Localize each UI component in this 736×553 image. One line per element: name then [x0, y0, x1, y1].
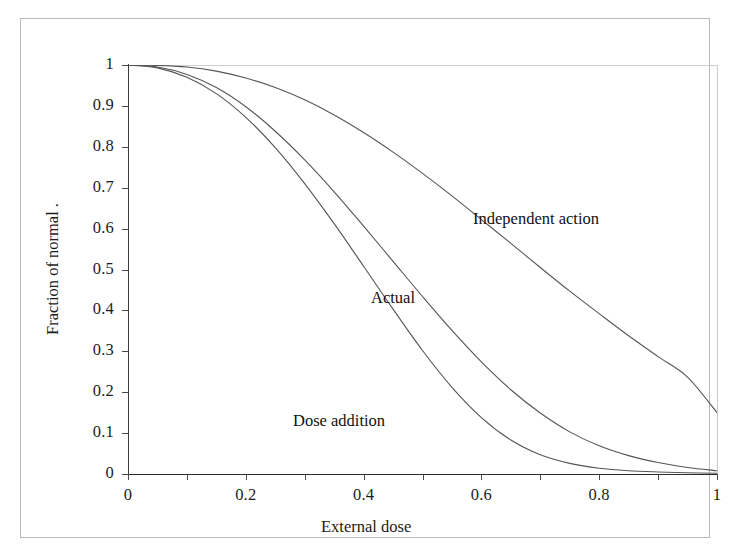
x-tick-mark: [364, 474, 365, 480]
x-tick-mark: [658, 474, 659, 480]
figure-root: 00.10.20.30.40.50.60.70.80.91 00.20.40.6…: [0, 0, 736, 553]
y-axis-title: Fraction of normal .: [43, 159, 63, 379]
x-tick-mark: [423, 474, 424, 480]
y-tick-label: 0.4: [54, 301, 114, 318]
y-tick-label: 0.9: [54, 97, 114, 114]
x-tick-mark: [305, 474, 306, 480]
x-tick-mark: [481, 474, 482, 480]
x-tick-label: 0.4: [329, 487, 399, 504]
x-tick-mark: [717, 474, 718, 480]
chart-frame: 00.10.20.30.40.50.60.70.80.91 00.20.40.6…: [20, 18, 710, 538]
curve-label-independent-action: Independent action: [473, 209, 599, 229]
y-tick-label: 0.6: [54, 220, 114, 237]
x-tick-mark: [599, 474, 600, 480]
y-tick-label: 0.1: [54, 424, 114, 441]
y-tick-label: 0.2: [54, 383, 114, 400]
y-tick-label: 0.3: [54, 342, 114, 359]
y-tick-label: 1: [54, 56, 114, 73]
chart-curves: [128, 65, 717, 474]
curve-independent-action: [128, 65, 717, 413]
x-tick-label: 0.2: [211, 487, 281, 504]
x-tick-mark: [540, 474, 541, 480]
plot-border-right: [717, 65, 718, 474]
curve-actual: [128, 65, 717, 471]
curve-dose-addition: [128, 65, 717, 473]
x-tick-label: 1: [682, 487, 736, 504]
y-tick-label: 0.7: [54, 179, 114, 196]
curve-label-dose-addition: Dose addition: [293, 411, 385, 431]
y-tick-label: 0.8: [54, 138, 114, 155]
plot-area: [128, 65, 717, 474]
x-axis-title: External dose: [321, 517, 411, 537]
curve-label-actual: Actual: [371, 288, 415, 308]
x-tick-label: 0.6: [446, 487, 516, 504]
x-tick-mark: [128, 474, 129, 480]
y-tick-label: 0: [54, 465, 114, 482]
x-tick-mark: [187, 474, 188, 480]
x-tick-label: 0.8: [564, 487, 634, 504]
x-tick-mark: [246, 474, 247, 480]
x-tick-label: 0: [93, 487, 163, 504]
y-tick-label: 0.5: [54, 261, 114, 278]
